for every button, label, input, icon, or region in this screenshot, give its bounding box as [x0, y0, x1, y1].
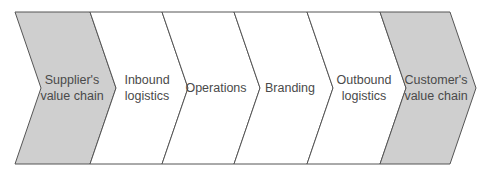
- stage-label-customers-value-chain: Customer's value chain: [404, 72, 467, 104]
- stage-label-outbound-logistics: Outbound logistics: [337, 72, 392, 104]
- stage-label-inbound-logistics: Inbound logistics: [124, 72, 169, 104]
- stage-label-line2: logistics: [337, 88, 392, 104]
- stage-label-line1: Inbound: [124, 72, 169, 88]
- stage-label-line2: logistics: [124, 88, 169, 104]
- stage-label-branding: Branding: [265, 80, 315, 96]
- stage-label-line1: Branding: [265, 80, 315, 96]
- stage-label-line2: value chain: [404, 88, 467, 104]
- stage-label-line1: Customer's: [404, 72, 467, 88]
- stage-label-line2: value chain: [40, 88, 103, 104]
- stage-label-suppliers-value-chain: Supplier's value chain: [40, 72, 103, 104]
- stage-label-line1: Supplier's: [40, 72, 103, 88]
- stage-label-line1: Operations: [185, 80, 246, 96]
- stage-label-line1: Outbound: [337, 72, 392, 88]
- value-chain-diagram: Supplier's value chain Inbound logistics…: [0, 0, 487, 174]
- stage-label-operations: Operations: [185, 80, 246, 96]
